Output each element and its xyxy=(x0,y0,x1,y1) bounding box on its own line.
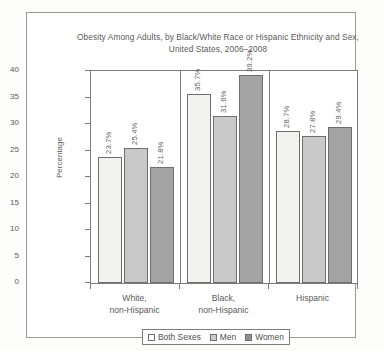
chart-legend: Both SexesMenWomen xyxy=(142,329,290,345)
bar-value-label: 21.8% xyxy=(156,142,165,165)
legend-label: Both Sexes xyxy=(158,332,201,342)
x-axis-tick-mark xyxy=(357,284,358,289)
y-axis-tick-label: 30 xyxy=(0,118,19,127)
bar xyxy=(187,94,211,283)
bar-value-label: 31.6% xyxy=(219,90,228,113)
bar xyxy=(239,75,263,283)
x-axis-category-label: Black,non-Hispanic xyxy=(179,292,268,316)
bar xyxy=(302,136,326,283)
x-axis-category-label: White,non-Hispanic xyxy=(90,292,179,316)
legend-label: Women xyxy=(255,332,284,342)
legend-item: Women xyxy=(245,332,284,342)
y-axis-tick-label: 40 xyxy=(0,65,19,74)
legend-label: Men xyxy=(220,332,236,342)
chart-title-line-2: United States, 2006–2008 xyxy=(57,43,379,55)
legend-item: Both Sexes xyxy=(148,332,201,342)
bar-value-label: 27.8% xyxy=(308,110,317,133)
bar-value-label: 39.2% xyxy=(245,50,254,73)
y-axis-tick-label: 35 xyxy=(0,92,19,101)
bar xyxy=(124,148,148,283)
bar xyxy=(98,157,122,283)
legend-swatch-icon xyxy=(245,334,252,341)
legend-swatch-icon xyxy=(148,334,155,341)
legend-swatch-icon xyxy=(210,334,217,341)
bar xyxy=(276,131,300,283)
x-axis-category-label: Hispanic xyxy=(268,292,357,304)
x-axis-category-label-line: White, xyxy=(90,292,179,304)
x-axis-category-label-line: non-Hispanic xyxy=(179,304,268,316)
group-divider-1 xyxy=(180,71,181,283)
x-axis-tick-mark xyxy=(179,284,180,289)
bar xyxy=(150,167,174,283)
bar-value-label: 29.4% xyxy=(334,102,343,125)
legend-item: Men xyxy=(210,332,236,342)
bar xyxy=(213,116,237,283)
y-axis-title: Percentage xyxy=(55,118,64,198)
bar-value-label: 25.4% xyxy=(130,123,139,146)
x-axis-tick-mark xyxy=(90,284,91,289)
bar-value-label: 28.7% xyxy=(282,105,291,128)
plot-area: 23.7%25.4%21.8%35.7%31.6%39.2%28.7%27.8%… xyxy=(90,70,358,284)
x-axis-category-label-line: Hispanic xyxy=(268,292,357,304)
y-axis-tick-label: 5 xyxy=(0,251,19,260)
chart-title: Obesity Among Adults, by Black/White Rac… xyxy=(57,31,379,55)
bar-value-label: 35.7% xyxy=(193,68,202,91)
bar-value-label: 23.7% xyxy=(104,132,113,155)
group-divider-2 xyxy=(269,71,270,283)
x-axis-tick-mark xyxy=(268,284,269,289)
x-axis-category-label-line: Black, xyxy=(179,292,268,304)
y-axis-tick-label: 20 xyxy=(0,171,19,180)
y-axis-tick-label: 10 xyxy=(0,224,19,233)
chart-title-line-1: Obesity Among Adults, by Black/White Rac… xyxy=(57,31,379,43)
y-axis-tick-label: 25 xyxy=(0,145,19,154)
y-axis-tick-label: 15 xyxy=(0,198,19,207)
chart-outer-frame: Obesity Among Adults, by Black/White Rac… xyxy=(26,12,356,338)
x-axis-category-label-line: non-Hispanic xyxy=(90,304,179,316)
bar xyxy=(328,127,352,283)
y-axis-tick-label: 0 xyxy=(0,277,19,286)
